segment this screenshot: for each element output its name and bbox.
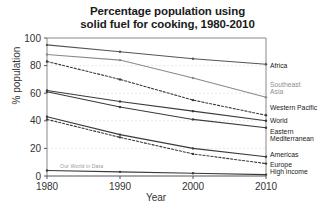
y-tick-label: 0 [35,171,41,182]
series-label-eastern-mediterranean: EasternMediterranean [270,128,314,143]
series-point [119,78,121,80]
series-label-americas: Americas [270,151,298,158]
series-point [46,60,48,62]
y-tick-label: 60 [30,88,42,99]
series-point [192,118,194,120]
series-point [265,173,267,175]
series-label-southeast-asia: SoutheastAsia [270,81,301,96]
series-point [192,147,194,149]
series-label-africa: Africa [270,62,287,69]
series-point [265,162,267,164]
series-label-line: Mediterranean [270,135,314,142]
series-point [192,99,194,101]
series-point [192,110,194,112]
series-point [119,133,121,135]
series-point [265,114,267,116]
series-label-high-income: High income [270,168,308,175]
series-label-line: Asia [270,88,301,95]
series-point [192,153,194,155]
x-axis-label: Year [46,192,266,203]
series-point [46,118,48,120]
y-axis-label: % population [11,36,22,116]
series-point [192,58,194,60]
series-label-line: Southeast [270,81,301,88]
chart-container: Percentage population using solid fuel f… [0,0,335,212]
series-line-high-income [47,170,266,174]
series-point [265,155,267,157]
series-point [265,120,267,122]
y-tick-label: 80 [30,60,42,71]
series-point [119,171,121,173]
series-label-western-pacific: Western Pacific [270,104,317,111]
series-point [46,44,48,46]
x-tick-label: 2000 [182,181,205,192]
y-tick-label: 100 [24,33,41,44]
watermark: Our World in Data [60,163,103,169]
series-point [192,77,194,79]
series-point [119,51,121,53]
series-line-world [47,90,266,120]
series-point [265,96,267,98]
series-point [46,91,48,93]
series-point [46,53,48,55]
x-tick-label: 1990 [109,181,132,192]
series-point [192,172,194,174]
x-tick-label: 2010 [255,181,278,192]
series-line-africa [47,45,266,64]
series-point [119,59,121,61]
series-line-eastern-mediterranean [47,92,266,128]
series-point [119,136,121,138]
y-tick-label: 40 [30,115,42,126]
series-point [119,106,121,108]
y-tick-label: 20 [30,143,42,154]
series-point [46,169,48,171]
x-tick-label: 1980 [36,181,59,192]
series-point [46,115,48,117]
series-point [265,127,267,129]
series-label-world: World [270,117,288,124]
series-label-line: Eastern [270,128,314,135]
series-point [265,63,267,65]
series-line-americas [47,117,266,157]
series-point [119,100,121,102]
series-line-southeast-asia [47,55,266,98]
